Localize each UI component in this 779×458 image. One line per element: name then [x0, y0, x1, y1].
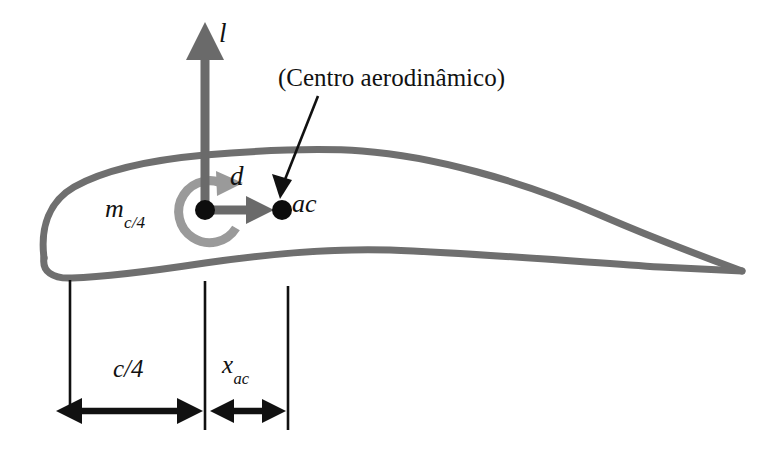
dimension-c4-arrowhead-right [177, 398, 203, 424]
dimension-xac-arrowhead-right [262, 399, 286, 423]
moment-label-subscript: c/4 [124, 213, 145, 232]
xac-dimension-symbol: x [222, 351, 233, 378]
airfoil-diagram: l d ac mc/4 (Centro aerodinâmico) c/4 xa… [0, 0, 779, 458]
leader-line-shaft [284, 96, 318, 182]
aerodynamic-center-label: ac [292, 191, 317, 217]
airfoil-lower-surface [44, 250, 742, 278]
quarter-chord-point [195, 200, 215, 220]
dimension-arrow-xac [210, 399, 286, 423]
drag-arrow-head [246, 196, 274, 224]
lift-label: l [219, 20, 227, 47]
drag-label: d [230, 163, 244, 190]
aerodynamic-center-point [272, 200, 292, 220]
airfoil-outline [43, 150, 742, 278]
moment-label-symbol: m [105, 194, 124, 223]
dimension-arrow-quarter-chord [56, 398, 203, 424]
xac-dimension-subscript: ac [233, 369, 249, 388]
aerodynamic-center-annotation: (Centro aerodinâmico) [278, 65, 505, 90]
quarter-chord-dimension-label: c/4 [113, 356, 144, 381]
dimension-xac-arrowhead-left [210, 399, 234, 423]
drag-arrow [205, 196, 274, 224]
xac-dimension-label: xac [222, 352, 249, 383]
leader-line-arrowhead [272, 174, 292, 199]
moment-label: mc/4 [105, 196, 145, 226]
